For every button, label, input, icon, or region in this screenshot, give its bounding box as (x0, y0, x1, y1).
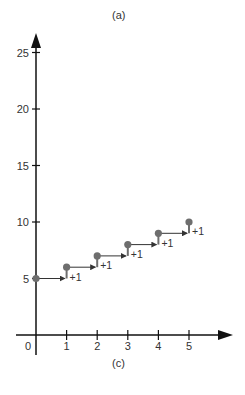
y-tick-label: 5 (23, 273, 29, 285)
x-tick-label: 5 (186, 340, 192, 352)
y-tick-label: 15 (17, 160, 29, 172)
y-tick-label: 25 (17, 47, 29, 59)
y-tick-label: 10 (17, 216, 29, 228)
data-point (63, 264, 70, 271)
data-point (185, 218, 192, 225)
step-label: +1 (100, 259, 112, 271)
data-point (94, 252, 101, 259)
x-tick-label: 1 (64, 340, 70, 352)
chart-caption: (c) (112, 357, 125, 369)
x-axis-arrow-icon (218, 330, 233, 340)
step-label: +1 (131, 248, 143, 260)
step-chart: 510152025012345+1+1+1+1+1 (0, 0, 245, 395)
x-tick-label: 3 (125, 340, 131, 352)
x-tick-label: 2 (94, 340, 100, 352)
data-point (124, 241, 131, 248)
step-label: +1 (70, 271, 82, 283)
step-label: +1 (161, 237, 173, 249)
y-axis-arrow-icon (31, 33, 41, 48)
data-point (32, 275, 39, 282)
step-label: +1 (192, 225, 204, 237)
y-tick-label: 20 (17, 103, 29, 115)
x-tick-label: 0 (25, 340, 31, 352)
x-tick-label: 4 (155, 340, 161, 352)
data-point (155, 230, 162, 237)
